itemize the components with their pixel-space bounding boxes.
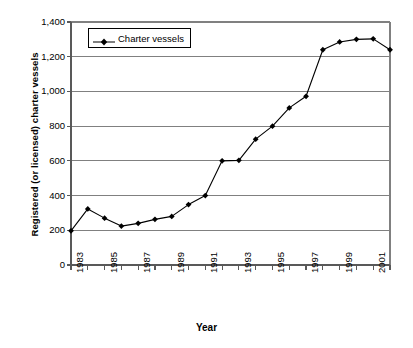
line-chart-figure: Registered (or licensed) charter vessels… (0, 0, 413, 348)
x-tick-label: 1991 (209, 252, 219, 273)
y-tick-label: 800 (19, 121, 65, 131)
x-tick-label: 1999 (344, 252, 354, 273)
axis-ticks (67, 22, 390, 270)
axis-lines (71, 22, 390, 265)
legend-line-marker-icon (93, 33, 115, 43)
legend-entry-charter-vessels: Charter vessels (93, 33, 184, 44)
y-tick-label: 200 (19, 225, 65, 235)
y-tick-label: 600 (19, 156, 65, 166)
y-tick-label: 1,400 (19, 17, 65, 27)
x-tick-label: 1989 (176, 252, 186, 273)
y-tick-label: 1,000 (19, 86, 65, 96)
x-tick-label: 1997 (310, 252, 320, 273)
x-tick-label: 2001 (377, 252, 387, 273)
x-tick-label: 1985 (109, 252, 119, 273)
data-series-charter-vessels (68, 36, 393, 234)
chart-legend: Charter vessels (88, 28, 191, 48)
x-tick-label: 1995 (276, 252, 286, 273)
gridlines (71, 22, 390, 230)
y-tick-label: 400 (19, 191, 65, 201)
x-tick-label: 1983 (75, 252, 85, 273)
x-tick-label: 1993 (243, 252, 253, 273)
y-tick-label: 0 (19, 260, 65, 270)
legend-label: Charter vessels (118, 33, 184, 44)
x-tick-label: 1987 (142, 252, 152, 273)
y-tick-label: 1,200 (19, 52, 65, 62)
